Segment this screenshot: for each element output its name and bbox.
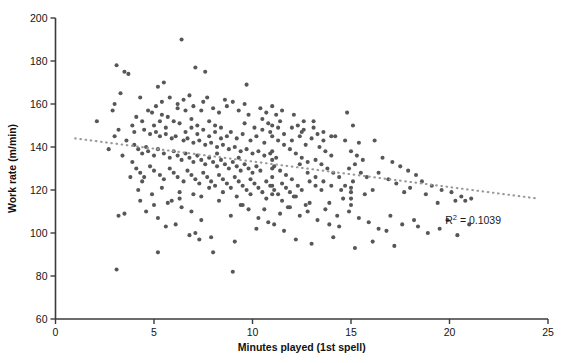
data-point	[416, 225, 420, 229]
y-tick-label: 160	[30, 98, 48, 110]
data-point	[227, 166, 231, 170]
data-point	[152, 203, 156, 207]
data-point	[164, 126, 168, 130]
data-point	[247, 207, 251, 211]
data-point	[180, 205, 184, 209]
data-point	[294, 194, 298, 198]
data-point	[327, 222, 331, 226]
data-point	[329, 154, 333, 158]
data-point	[296, 184, 300, 188]
data-point	[262, 154, 266, 158]
data-point	[262, 141, 266, 145]
data-point	[178, 190, 182, 194]
data-point	[116, 128, 120, 132]
data-point	[343, 139, 347, 143]
data-point	[146, 108, 150, 112]
data-point	[154, 104, 158, 108]
data-point	[260, 128, 264, 132]
data-point	[225, 134, 229, 138]
data-point	[276, 139, 280, 143]
data-point	[243, 121, 247, 125]
data-point	[156, 216, 160, 220]
data-point	[152, 154, 156, 158]
data-point	[239, 149, 243, 153]
data-point	[158, 173, 162, 177]
data-point	[191, 104, 195, 108]
data-point	[284, 186, 288, 190]
data-point	[308, 179, 312, 183]
data-point	[193, 231, 197, 235]
data-point	[189, 126, 193, 130]
data-point	[351, 123, 355, 127]
y-tick-label: 180	[30, 55, 48, 67]
data-point	[325, 166, 329, 170]
data-point	[162, 151, 166, 155]
data-point	[294, 151, 298, 155]
data-point	[168, 166, 172, 170]
data-point	[213, 130, 217, 134]
data-point	[270, 104, 274, 108]
data-point	[136, 147, 140, 151]
data-point	[349, 203, 353, 207]
data-point	[335, 214, 339, 218]
data-point	[207, 119, 211, 123]
data-point	[130, 123, 134, 127]
data-point	[278, 212, 282, 216]
data-point	[298, 214, 302, 218]
data-point	[371, 240, 375, 244]
data-point	[219, 158, 223, 162]
data-point	[247, 113, 251, 117]
data-point	[160, 186, 164, 190]
data-point	[455, 233, 459, 237]
x-tick-label: 20	[444, 326, 456, 338]
data-point	[113, 102, 117, 106]
data-point	[229, 186, 233, 190]
data-point	[130, 160, 134, 164]
data-point	[187, 156, 191, 160]
data-point	[402, 190, 406, 194]
data-point	[294, 237, 298, 241]
data-point	[197, 182, 201, 186]
data-point	[138, 171, 142, 175]
data-point	[384, 229, 388, 233]
data-point	[227, 147, 231, 151]
data-point	[351, 179, 355, 183]
data-point	[237, 108, 241, 112]
data-point	[449, 190, 453, 194]
data-point	[148, 132, 152, 136]
data-point	[252, 182, 256, 186]
data-point	[270, 175, 274, 179]
data-point	[312, 119, 316, 123]
data-point	[205, 175, 209, 179]
data-point	[233, 175, 237, 179]
data-point	[388, 214, 392, 218]
data-point	[355, 154, 359, 158]
data-point	[274, 156, 278, 160]
x-tick-label: 25	[542, 326, 554, 338]
data-point	[170, 136, 174, 140]
data-point	[276, 192, 280, 196]
data-point	[333, 134, 337, 138]
data-point	[313, 184, 317, 188]
data-point	[377, 171, 381, 175]
data-point	[312, 126, 316, 130]
data-point	[138, 96, 142, 100]
data-point	[231, 270, 235, 274]
data-point	[274, 113, 278, 117]
scatter-points-group	[95, 37, 473, 273]
data-point	[189, 117, 193, 121]
data-point	[357, 216, 361, 220]
data-point	[256, 149, 260, 153]
data-point	[367, 220, 371, 224]
data-point	[243, 162, 247, 166]
data-point	[233, 240, 237, 244]
data-point	[247, 166, 251, 170]
data-point	[426, 231, 430, 235]
data-point	[292, 113, 296, 117]
data-point	[170, 199, 174, 203]
data-point	[270, 149, 274, 153]
data-point	[341, 197, 345, 201]
data-point	[148, 164, 152, 168]
data-point	[217, 111, 221, 115]
data-point	[272, 188, 276, 192]
